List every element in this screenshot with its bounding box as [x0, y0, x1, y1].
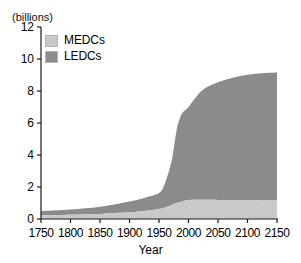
legend-swatch-medcs	[45, 35, 58, 47]
x-tick-label: 1850	[85, 227, 115, 239]
legend-item-ledcs: LEDCs	[45, 50, 105, 63]
x-tick-label: 2050	[203, 227, 233, 239]
area-ledcs	[41, 73, 277, 216]
legend-label-medcs: MEDCs	[64, 34, 105, 47]
x-tick-label: 1750	[26, 227, 56, 239]
x-tick-label: 1800	[56, 227, 86, 239]
y-tick-label: 12	[10, 21, 34, 33]
y-tick-label: 4	[10, 149, 34, 161]
x-axis-title: Year	[0, 244, 301, 257]
x-tick-label: 1900	[115, 227, 145, 239]
legend-swatch-ledcs	[45, 51, 58, 63]
x-tick-label: 2150	[262, 227, 292, 239]
y-tick-label: 2	[10, 181, 34, 193]
legend-item-medcs: MEDCs	[45, 34, 105, 47]
chart-legend: MEDCs LEDCs	[45, 34, 105, 63]
population-area-chart: (billions) MEDCs LEDCs 024681012 1750180…	[0, 0, 301, 263]
y-tick-label: 0	[10, 213, 34, 225]
x-tick-label: 2100	[233, 227, 263, 239]
y-tick-label: 8	[10, 85, 34, 97]
legend-label-ledcs: LEDCs	[64, 50, 102, 63]
y-tick-label: 6	[10, 117, 34, 129]
area-series-group	[41, 73, 277, 219]
x-tick-label: 2000	[174, 227, 204, 239]
x-tick-label: 1950	[144, 227, 174, 239]
y-tick-label: 10	[10, 53, 34, 65]
